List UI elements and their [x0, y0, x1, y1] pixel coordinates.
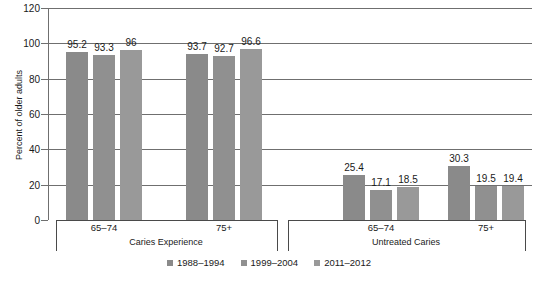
gridline-100 [48, 43, 532, 44]
bar-value-label: 95.2 [67, 40, 86, 50]
y-tick-mark-80 [41, 79, 48, 80]
category-tick-label: 65–74 [64, 222, 144, 233]
legend-swatch-icon [167, 260, 173, 266]
category-tick-label: 75+ [446, 222, 526, 233]
legend-swatch-icon [314, 260, 320, 266]
bar-value-label: 17.1 [371, 178, 390, 188]
bar: 19.5 [475, 186, 497, 220]
bar: 25.4 [343, 175, 365, 220]
legend-label: 2011–2012 [324, 258, 371, 268]
bar-value-label: 93.3 [94, 43, 113, 53]
y-tick-mark-0 [41, 220, 48, 221]
bar: 93.3 [93, 55, 115, 220]
bar: 96 [120, 50, 142, 220]
bar-value-label: 96 [125, 38, 136, 48]
y-tick-mark-60 [41, 114, 48, 115]
bar-value-label: 96.6 [241, 37, 260, 47]
bar: 93.7 [186, 54, 208, 220]
plot-area: 020406080100120 95.293.725.430.393.392.7… [48, 8, 532, 220]
bar: 92.7 [213, 56, 235, 220]
y-tick-label-20: 20 [0, 181, 40, 191]
y-tick-label-120: 120 [0, 4, 40, 14]
category-tick-label: 65–74 [341, 222, 421, 233]
y-tick-mark-40 [41, 149, 48, 150]
bar-value-label: 93.7 [187, 42, 206, 52]
y-tick-label-60: 60 [0, 110, 40, 120]
y-tick-label-40: 40 [0, 145, 40, 155]
legend-item-3[interactable]: 2011–2012 [314, 258, 371, 268]
bar: 19.4 [502, 186, 524, 220]
category-tick-label: 75+ [184, 222, 264, 233]
bar-value-label: 25.4 [344, 163, 363, 173]
y-tick-label-0: 0 [0, 216, 40, 226]
y-tick-mark-100 [41, 43, 48, 44]
panel-label: Untreated Caries [326, 237, 486, 247]
bar: 18.5 [397, 187, 419, 220]
gridline-120 [48, 8, 532, 9]
legend-label: 1988–1994 [177, 258, 225, 268]
bar-value-label: 19.4 [503, 174, 522, 184]
bar: 96.6 [240, 49, 262, 220]
panel-label: Caries Experience [86, 237, 246, 247]
bar: 17.1 [370, 190, 392, 220]
category-axis: 65–7475+Caries Experience65–7475+Untreat… [48, 220, 532, 250]
y-tick-mark-20 [41, 185, 48, 186]
legend-label: 1999–2004 [251, 258, 299, 268]
bar-value-label: 30.3 [449, 154, 468, 164]
bar-value-label: 19.5 [476, 174, 495, 184]
y-tick-label-100: 100 [0, 39, 40, 49]
bar-value-label: 92.7 [214, 44, 233, 54]
legend: 1988–19941999–20042011–2012 [0, 258, 538, 268]
legend-item-2[interactable]: 1999–2004 [241, 258, 299, 268]
bar-chart: Percent of older adults 020406080100120 … [0, 0, 538, 288]
bar-value-label: 18.5 [398, 175, 417, 185]
legend-item-1[interactable]: 1988–1994 [167, 258, 225, 268]
legend-swatch-icon [241, 260, 247, 266]
bar: 30.3 [448, 166, 470, 220]
y-tick-mark-120 [41, 8, 48, 9]
y-tick-label-80: 80 [0, 75, 40, 85]
bar: 95.2 [66, 52, 88, 220]
